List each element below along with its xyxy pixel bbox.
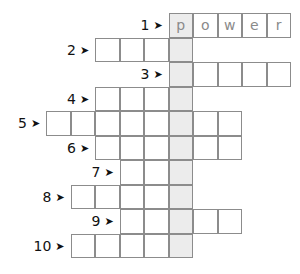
clue-number-3: 3➤ xyxy=(141,62,163,86)
crossword-cell-highlighted[interactable] xyxy=(169,87,194,112)
crossword-cell[interactable] xyxy=(120,209,145,234)
crossword-cell-highlighted[interactable] xyxy=(169,62,194,87)
crossword-cell[interactable] xyxy=(144,234,169,259)
crossword-cell-highlighted[interactable] xyxy=(169,185,194,210)
clue-number-8: 8➤ xyxy=(43,185,65,209)
cell-letter: p xyxy=(170,14,193,37)
clue-number-label: 9 xyxy=(92,213,101,229)
crossword-cell-highlighted[interactable] xyxy=(169,160,194,185)
crossword-cell-highlighted[interactable] xyxy=(169,234,194,259)
crossword-cell[interactable] xyxy=(71,234,96,259)
clue-number-label: 3 xyxy=(141,66,150,82)
crossword-cell[interactable] xyxy=(95,234,120,259)
clue-number-label: 2 xyxy=(67,42,76,58)
cell-letter: w xyxy=(219,14,242,37)
crossword-cell[interactable]: e xyxy=(242,13,267,38)
crossword-cell[interactable] xyxy=(144,87,169,112)
crossword-cell[interactable] xyxy=(144,185,169,210)
clue-number-6: 6➤ xyxy=(67,136,89,160)
clue-number-10: 10➤ xyxy=(34,234,65,258)
crossword-cell[interactable] xyxy=(218,209,243,234)
clue-number-2: 2➤ xyxy=(67,38,89,62)
crossword-cell[interactable] xyxy=(218,111,243,136)
clue-number-5: 5➤ xyxy=(18,111,40,135)
crossword-cell[interactable] xyxy=(144,38,169,63)
arrow-right-icon: ➤ xyxy=(55,235,64,259)
crossword-cell[interactable] xyxy=(120,38,145,63)
crossword-cell[interactable] xyxy=(95,87,120,112)
crossword-cell[interactable] xyxy=(46,111,71,136)
crossword-cell-highlighted[interactable] xyxy=(169,209,194,234)
crossword-cell[interactable] xyxy=(144,209,169,234)
clue-number-9: 9➤ xyxy=(92,209,114,233)
crossword-cell[interactable] xyxy=(71,111,96,136)
crossword-cell[interactable] xyxy=(95,185,120,210)
crossword-cell[interactable] xyxy=(193,62,218,87)
crossword-cell[interactable]: w xyxy=(218,13,243,38)
crossword-cell[interactable] xyxy=(193,209,218,234)
clue-number-label: 4 xyxy=(67,91,76,107)
clue-number-label: 6 xyxy=(67,140,76,156)
crossword-cell[interactable] xyxy=(120,87,145,112)
crossword-cell[interactable] xyxy=(120,111,145,136)
clue-number-label: 5 xyxy=(18,115,27,131)
crossword-cell[interactable] xyxy=(144,136,169,161)
crossword-cell-highlighted[interactable] xyxy=(169,38,194,63)
crossword-cell[interactable] xyxy=(120,185,145,210)
arrow-right-icon: ➤ xyxy=(55,186,64,210)
clue-number-label: 10 xyxy=(34,238,52,254)
arrow-right-icon: ➤ xyxy=(80,39,89,63)
crossword-cell[interactable] xyxy=(218,136,243,161)
crossword-cell[interactable] xyxy=(95,136,120,161)
clue-number-1: 1➤ xyxy=(141,13,163,37)
crossword-cell[interactable]: o xyxy=(193,13,218,38)
cell-letter: e xyxy=(243,14,266,37)
clue-number-label: 1 xyxy=(141,17,150,33)
crossword-cell-highlighted[interactable]: p xyxy=(169,13,194,38)
crossword-cell[interactable] xyxy=(144,160,169,185)
arrow-right-icon: ➤ xyxy=(104,161,113,185)
arrow-right-icon: ➤ xyxy=(153,14,162,38)
crossword-cell[interactable] xyxy=(267,62,292,87)
crossword-cell[interactable] xyxy=(95,38,120,63)
crossword-cell[interactable] xyxy=(144,111,169,136)
arrow-right-icon: ➤ xyxy=(80,137,89,161)
crossword-cell-highlighted[interactable] xyxy=(169,111,194,136)
cell-letter: r xyxy=(268,14,291,37)
cell-letter: o xyxy=(194,14,217,37)
clue-number-7: 7➤ xyxy=(92,160,114,184)
crossword-cell[interactable] xyxy=(242,62,267,87)
arrow-right-icon: ➤ xyxy=(31,112,40,136)
crossword-cell[interactable] xyxy=(120,136,145,161)
crossword-cell[interactable] xyxy=(218,62,243,87)
clue-number-4: 4➤ xyxy=(67,87,89,111)
crossword-cell[interactable]: r xyxy=(267,13,292,38)
arrow-right-icon: ➤ xyxy=(80,88,89,112)
arrow-right-icon: ➤ xyxy=(104,210,113,234)
crossword-cell[interactable] xyxy=(120,160,145,185)
crossword-cell-highlighted[interactable] xyxy=(169,136,194,161)
arrow-right-icon: ➤ xyxy=(153,63,162,87)
crossword-cell[interactable] xyxy=(71,185,96,210)
crossword-cell[interactable] xyxy=(193,136,218,161)
crossword-cell[interactable] xyxy=(193,111,218,136)
crossword-cell[interactable] xyxy=(120,234,145,259)
clue-number-label: 8 xyxy=(43,189,52,205)
crossword-grid: 1➤power2➤3➤4➤5➤6➤7➤8➤9➤10➤ xyxy=(0,0,300,274)
clue-number-label: 7 xyxy=(92,164,101,180)
crossword-cell[interactable] xyxy=(95,111,120,136)
